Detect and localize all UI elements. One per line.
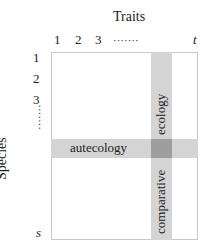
row-label-1: 1 xyxy=(33,50,40,66)
column-label-t: t xyxy=(193,32,197,48)
comparative-label: comparative xyxy=(153,170,169,234)
column-label-1: 1 xyxy=(54,32,61,48)
species-axis-label: Species xyxy=(0,137,10,180)
column-label-ellipsis: ······· xyxy=(113,34,139,46)
column-label-3: 3 xyxy=(95,32,102,48)
row-label-2: 2 xyxy=(33,71,40,87)
autecology-label: autecology xyxy=(70,140,127,156)
traits-title: Traits xyxy=(113,9,145,25)
column-label-2: 2 xyxy=(75,32,82,48)
row-label-ellipsis: ······· xyxy=(33,104,45,130)
ecology-label: ecology xyxy=(153,94,169,135)
band-intersection xyxy=(151,139,172,158)
row-label-s: s xyxy=(36,225,41,241)
